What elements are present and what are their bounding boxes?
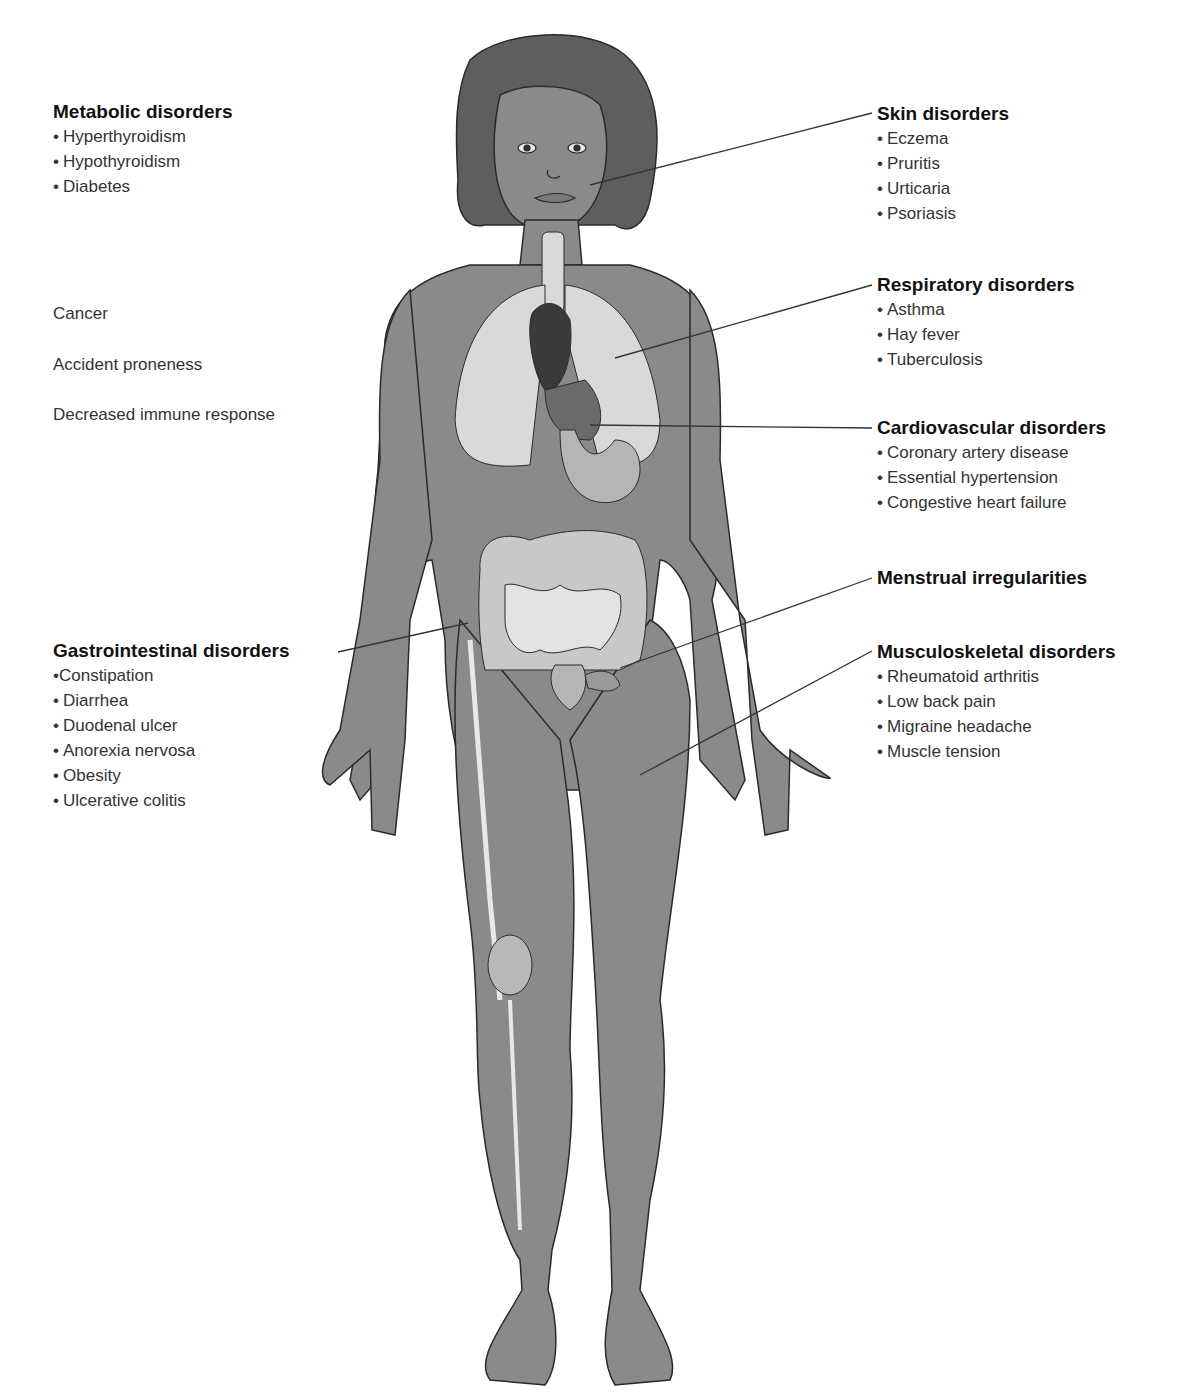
list-item: •Asthma [877,297,1074,322]
list-item: •Eczema [877,126,1009,151]
list-item: •Psoriasis [877,201,1009,226]
left-leg [455,620,574,1385]
gastrointestinal-heading: Gastrointestinal disorders [53,639,290,663]
knee [488,935,532,995]
list-item: •Hypothyroidism [53,149,233,174]
metabolic-list: •Hyperthyroidism •Hypothyroidism •Diabet… [53,124,233,199]
respiratory-list: •Asthma •Hay fever •Tuberculosis [877,297,1074,372]
gastrointestinal-disorders-group: Gastrointestinal disorders •Constipation… [53,639,290,813]
skin-heading: Skin disorders [877,102,1009,126]
menstrual-irregularities-group: Menstrual irregularities [877,566,1087,590]
list-item: •Diabetes [53,174,233,199]
list-item: •Low back pain [877,689,1116,714]
list-item: •Obesity [53,763,290,788]
musculoskeletal-disorders-group: Musculoskeletal disorders •Rheumatoid ar… [877,640,1116,764]
list-item: •Constipation [53,663,290,688]
list-item: •Tuberculosis [877,347,1074,372]
list-item: •Anorexia nervosa [53,738,290,763]
list-item: •Coronary artery disease [877,440,1106,465]
decreased-immune-response-label: Decreased immune response [53,405,275,425]
metabolic-heading: Metabolic disorders [53,100,233,124]
accident-proneness-label: Accident proneness [53,355,202,375]
menstrual-heading: Menstrual irregularities [877,566,1087,590]
skin-list: •Eczema •Pruritis •Urticaria •Psoriasis [877,126,1009,226]
list-item: •Essential hypertension [877,465,1106,490]
list-item: •Migraine headache [877,714,1116,739]
list-item: •Rheumatoid arthritis [877,664,1116,689]
cancer-label: Cancer [53,304,108,324]
skin-disorders-group: Skin disorders •Eczema •Pruritis •Urtica… [877,102,1009,226]
cardiovascular-list: •Coronary artery disease •Essential hype… [877,440,1106,515]
list-item: •Hyperthyroidism [53,124,233,149]
face [494,86,606,230]
list-item: •Ulcerative colitis [53,788,290,813]
left-arm [323,290,432,835]
cardiovascular-disorders-group: Cardiovascular disorders •Coronary arter… [877,416,1106,515]
musculoskeletal-list: •Rheumatoid arthritis •Low back pain •Mi… [877,664,1116,764]
list-item: •Congestive heart failure [877,490,1106,515]
list-item: •Urticaria [877,176,1009,201]
cardiovascular-heading: Cardiovascular disorders [877,416,1106,440]
gastrointestinal-list: •Constipation •Diarrhea •Duodenal ulcer … [53,663,290,813]
musculoskeletal-heading: Musculoskeletal disorders [877,640,1116,664]
metabolic-disorders-group: Metabolic disorders •Hyperthyroidism •Hy… [53,100,233,199]
right-leg [570,620,690,1385]
list-item: •Diarrhea [53,688,290,713]
respiratory-heading: Respiratory disorders [877,273,1074,297]
list-item: •Hay fever [877,322,1074,347]
list-item: •Pruritis [877,151,1009,176]
small-intestine [505,584,621,653]
list-item: •Muscle tension [877,739,1116,764]
list-item: •Duodenal ulcer [53,713,290,738]
body-silhouette [323,35,830,1385]
respiratory-disorders-group: Respiratory disorders •Asthma •Hay fever… [877,273,1074,372]
